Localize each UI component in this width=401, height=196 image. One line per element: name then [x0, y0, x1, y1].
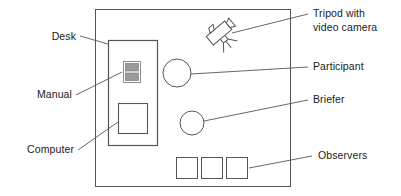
- briefer-circle: [180, 111, 204, 135]
- observer-seat-1: [177, 158, 198, 179]
- observer-seat-2: [202, 158, 223, 179]
- label-briefer: Briefer: [313, 93, 345, 106]
- label-computer: Computer: [0, 143, 74, 156]
- label-tripod-line2: video camera: [313, 21, 377, 34]
- computer: [119, 104, 148, 134]
- label-tripod-line1: Tripod with: [313, 7, 365, 20]
- manual-page-top: [126, 64, 139, 72]
- label-manual: Manual: [6, 88, 72, 101]
- observer-seat-3: [227, 158, 248, 179]
- participant-circle: [163, 59, 191, 87]
- label-desk: Desk: [14, 30, 76, 43]
- room-layout-diagram: Desk Manual Computer Tripod with video c…: [0, 0, 401, 196]
- label-participant: Participant: [313, 60, 364, 73]
- label-observers: Observers: [318, 149, 367, 162]
- manual-page-bottom: [126, 73, 139, 81]
